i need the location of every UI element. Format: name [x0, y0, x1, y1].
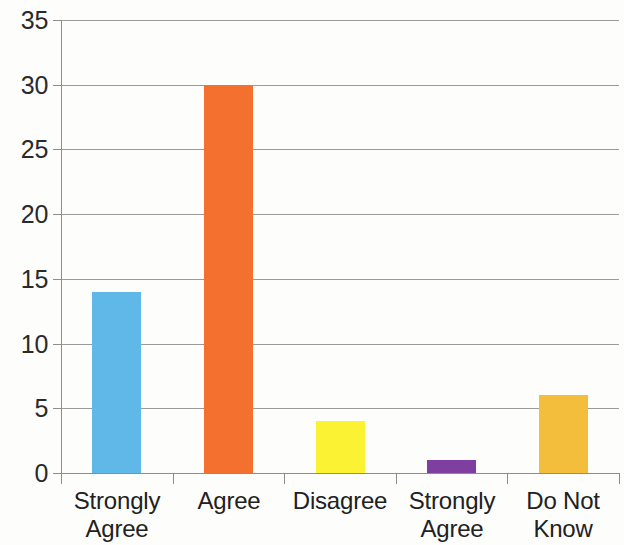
x-axis-tick [284, 473, 285, 484]
x-axis-tick [173, 473, 174, 484]
x-axis-category-label: StronglyAgree [396, 487, 508, 543]
x-axis-category-label-line2: Agree [61, 515, 173, 543]
x-axis-category-label-line2: Agree [396, 515, 508, 543]
y-axis-tick [53, 20, 61, 21]
x-axis-tick [396, 473, 397, 484]
y-axis-labels: 05101520253035 [0, 0, 48, 545]
y-axis-tick-label: 10 [4, 331, 48, 356]
y-axis-tick-label: 25 [4, 137, 48, 162]
x-axis-baseline [61, 473, 619, 474]
bar [539, 395, 588, 473]
bar [204, 85, 253, 473]
bar [92, 292, 141, 473]
y-axis-tick [53, 149, 61, 150]
y-axis-tick [53, 408, 61, 409]
bars-layer [61, 20, 619, 473]
y-axis-tick-label: 35 [4, 8, 48, 33]
x-axis-tick [619, 473, 620, 484]
x-axis-category-label: Do NotKnow [507, 487, 619, 543]
x-axis-tick [61, 473, 62, 484]
y-axis-tick [53, 473, 61, 474]
x-axis-category-label: StronglyAgree [61, 487, 173, 543]
y-axis-tick-label: 30 [4, 72, 48, 97]
x-axis-category-label: Agree [173, 487, 285, 515]
y-axis-tick-label: 20 [4, 202, 48, 227]
x-axis-category-label-line1: Do Not [526, 487, 600, 514]
y-axis-tick [53, 279, 61, 280]
x-axis-labels: StronglyAgreeAgreeDisagreeStronglyAgreeD… [61, 487, 619, 545]
x-axis-category-label-line1: Disagree [293, 487, 387, 514]
y-axis-tick-label: 15 [4, 266, 48, 291]
x-axis-category-label-line2: Know [507, 515, 619, 543]
bar [316, 421, 365, 473]
x-axis-category-label-line1: Strongly [74, 487, 160, 514]
y-axis-tick-label: 0 [4, 461, 48, 486]
x-axis-category-label: Disagree [284, 487, 396, 515]
x-axis-category-label-line1: Agree [197, 487, 260, 514]
x-axis-tick [507, 473, 508, 484]
y-axis-tick [53, 214, 61, 215]
x-axis-category-label-line1: Strongly [409, 487, 495, 514]
y-axis-tick [53, 85, 61, 86]
y-axis-tick-label: 5 [4, 396, 48, 421]
bar-chart: 05101520253035 StronglyAgreeAgreeDisagre… [0, 0, 624, 545]
bar [427, 460, 476, 473]
y-axis-tick [53, 344, 61, 345]
